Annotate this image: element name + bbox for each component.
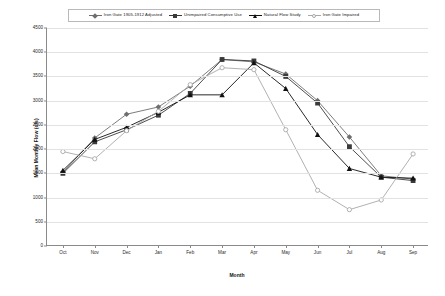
data-point-marker xyxy=(252,68,256,72)
x-tick-label: Sep xyxy=(409,251,417,256)
data-point-marker xyxy=(284,128,288,132)
y-tick-label: 3000 xyxy=(33,98,43,103)
gridline xyxy=(47,222,428,223)
x-tick-label: Jun xyxy=(314,251,321,256)
data-point-marker xyxy=(315,132,320,137)
x-tick-mark xyxy=(222,245,223,248)
x-tick-mark xyxy=(95,245,96,248)
y-tick-mark xyxy=(44,100,47,101)
gridline xyxy=(47,76,428,77)
y-tick-mark xyxy=(44,173,47,174)
gridline xyxy=(47,28,428,29)
x-tick-mark xyxy=(63,245,64,248)
legend-label: Iron Gate 1905-1912 Adjusted xyxy=(104,13,162,17)
x-tick-label: Oct xyxy=(59,251,66,256)
y-tick-label: 0 xyxy=(40,244,43,249)
y-tick-mark xyxy=(44,124,47,125)
legend-item[interactable]: Unimpaired Consumptive Use xyxy=(169,12,242,19)
legend-label: Unimpaired Consumptive Use xyxy=(184,13,242,17)
series-line xyxy=(63,59,413,180)
y-tick-label: 4500 xyxy=(33,26,43,31)
y-tick-label: 4000 xyxy=(33,50,43,55)
y-tick-mark xyxy=(44,221,47,222)
y-tick-mark xyxy=(44,149,47,150)
data-point-marker xyxy=(93,157,97,161)
gridline xyxy=(47,149,428,150)
plot-area: 050010001500200025003000350040004500OctN… xyxy=(46,28,428,246)
x-tick-mark xyxy=(286,245,287,248)
y-tick-mark xyxy=(44,76,47,77)
gridline xyxy=(47,125,428,126)
data-point-marker xyxy=(347,208,351,212)
legend-label: Natural Flow Study xyxy=(264,13,301,17)
legend-label: Iron Gate Impaired xyxy=(323,13,359,17)
data-point-marker xyxy=(411,152,415,156)
legend-marker-icon xyxy=(308,12,321,19)
legend-marker-icon xyxy=(249,12,262,19)
chart-container: Iron Gate 1905-1912 AdjustedUnimpaired C… xyxy=(0,0,445,296)
y-tick-label: 2000 xyxy=(33,147,43,152)
gridline xyxy=(47,198,428,199)
y-tick-label: 2500 xyxy=(33,123,43,128)
x-tick-label: Feb xyxy=(186,251,194,256)
x-tick-mark xyxy=(381,245,382,248)
x-tick-label: Aug xyxy=(377,251,385,256)
data-point-marker xyxy=(220,66,224,70)
x-tick-label: Nov xyxy=(91,251,99,256)
series-line xyxy=(63,63,413,178)
x-tick-label: Mar xyxy=(218,251,226,256)
y-tick-mark xyxy=(44,28,47,29)
legend-item[interactable]: Iron Gate 1905-1912 Adjusted xyxy=(89,12,162,19)
x-tick-mark xyxy=(349,245,350,248)
y-tick-label: 3500 xyxy=(33,74,43,79)
x-tick-label: Jan xyxy=(155,251,162,256)
x-tick-label: May xyxy=(281,251,290,256)
x-tick-mark xyxy=(318,245,319,248)
chart-legend: Iron Gate 1905-1912 AdjustedUnimpaired C… xyxy=(68,9,380,22)
y-tick-label: 500 xyxy=(35,219,43,224)
legend-item[interactable]: Natural Flow Study xyxy=(249,12,301,19)
gridline xyxy=(47,101,428,102)
x-tick-mark xyxy=(413,245,414,248)
x-tick-label: Dec xyxy=(122,251,130,256)
legend-marker-icon xyxy=(89,12,102,19)
x-axis-title: Month xyxy=(46,272,428,278)
y-tick-mark xyxy=(44,52,47,53)
gridline xyxy=(47,52,428,53)
series-line xyxy=(63,59,413,179)
y-tick-mark xyxy=(44,197,47,198)
data-point-marker xyxy=(188,83,192,87)
y-tick-mark xyxy=(44,246,47,247)
series-layer xyxy=(47,28,429,246)
data-point-marker xyxy=(315,188,319,192)
x-tick-mark xyxy=(190,245,191,248)
x-tick-label: Jul xyxy=(346,251,352,256)
x-tick-label: Apr xyxy=(250,251,257,256)
data-point-marker xyxy=(220,57,225,62)
x-tick-mark xyxy=(127,245,128,248)
legend-item[interactable]: Iron Gate Impaired xyxy=(308,12,359,19)
legend-marker-icon xyxy=(169,12,182,19)
x-tick-mark xyxy=(254,245,255,248)
data-point-marker xyxy=(124,129,128,133)
x-tick-mark xyxy=(158,245,159,248)
y-tick-label: 1000 xyxy=(33,195,43,200)
series-line xyxy=(63,68,413,210)
data-point-marker xyxy=(156,109,160,113)
y-tick-label: 1500 xyxy=(33,171,43,176)
gridline xyxy=(47,173,428,174)
